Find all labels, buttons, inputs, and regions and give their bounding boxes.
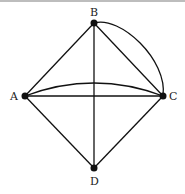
edge-a-d: [25, 96, 94, 168]
label-a: A: [9, 90, 19, 103]
label-c: C: [169, 90, 177, 103]
node-c: [160, 93, 167, 100]
label-b: B: [90, 6, 98, 19]
node-b: [91, 20, 98, 27]
node-a: [22, 93, 29, 100]
edge-c-d: [94, 96, 163, 168]
node-d: [91, 165, 98, 172]
label-d: D: [90, 175, 99, 188]
graph-diagram: A B C D: [0, 0, 185, 194]
edge-a-b: [25, 23, 94, 96]
